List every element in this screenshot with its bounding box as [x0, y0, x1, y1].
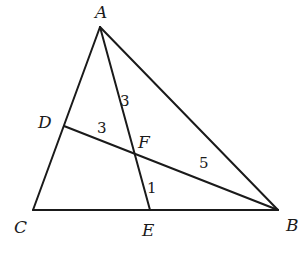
- label-A: A: [93, 2, 107, 22]
- length-AF: 3: [120, 92, 130, 110]
- label-B: B: [285, 215, 299, 235]
- length-DF: 3: [97, 119, 107, 137]
- vertex-labels: A B C D E F: [14, 2, 299, 240]
- length-FE: 1: [147, 179, 157, 197]
- segment-DB: [64, 126, 278, 210]
- label-F: F: [137, 132, 151, 152]
- length-FB: 5: [199, 154, 209, 172]
- segment-AB: [100, 27, 278, 210]
- segment-AE: [100, 27, 150, 210]
- triangle-diagram: A B C D E F 3 3 5 1: [0, 0, 303, 260]
- label-C: C: [14, 217, 27, 237]
- label-E: E: [141, 220, 155, 240]
- label-D: D: [37, 112, 52, 132]
